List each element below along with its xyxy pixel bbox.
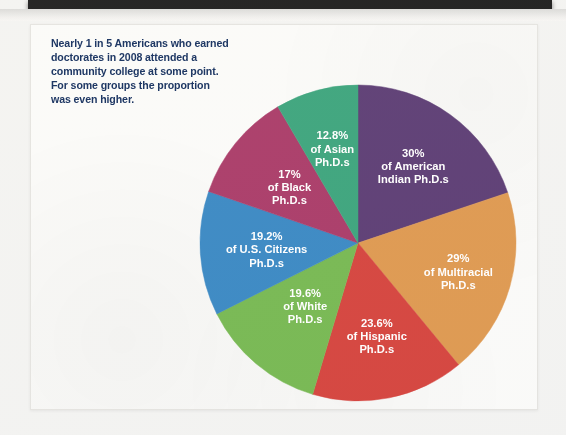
scanner-edge-bar (28, 0, 552, 9)
pie-slice-label: 19.6%of WhitePh.D.s (283, 287, 327, 326)
infographic-card: Nearly 1 in 5 Americans who earned docto… (30, 24, 538, 410)
scanned-page: Nearly 1 in 5 Americans who earned docto… (0, 0, 566, 435)
caption-text: Nearly 1 in 5 Americans who earned docto… (51, 36, 231, 106)
pie-slice-label: 12.8%of AsianPh.D.s (310, 129, 354, 168)
scanner-edge-gradient (0, 9, 566, 21)
